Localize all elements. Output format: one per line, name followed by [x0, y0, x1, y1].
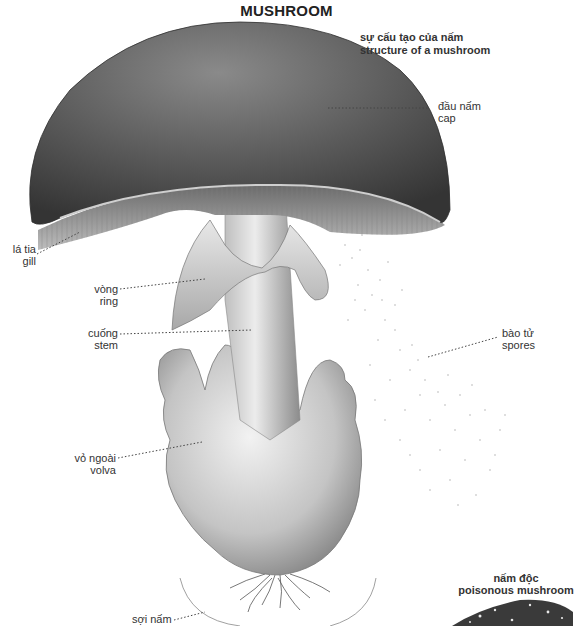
spores-cloud — [339, 229, 506, 506]
label-ring-vi: vòng — [60, 283, 118, 295]
spores-leader — [428, 337, 498, 357]
label-spores-en: spores — [502, 339, 535, 351]
label-volva-vi: vỏ ngoài — [40, 452, 116, 464]
mycelium-leader — [174, 612, 205, 620]
label-stem-vi: cuống — [60, 327, 118, 339]
label-stem-en: stem — [60, 339, 118, 351]
label-spores: bào tử spores — [502, 327, 535, 351]
label-ring: vòng ring — [60, 283, 118, 307]
subtitle: sự cấu tạo của nấm structure of a mushro… — [360, 31, 490, 57]
label-cap: đầu nấm cap — [438, 100, 481, 124]
label-stem: cuống stem — [60, 327, 118, 351]
label-gill: lá tia gill — [0, 243, 36, 267]
label-ring-en: ring — [60, 295, 118, 307]
label-volva-en: volva — [40, 464, 116, 476]
label-cap-vi: đầu nấm — [438, 100, 481, 112]
label-spores-vi: bào tử — [502, 327, 535, 339]
mycelium-outline — [180, 578, 376, 626]
subtitle-vi: sự cấu tạo của nấm — [360, 31, 490, 44]
page-title: MUSHROOM — [0, 2, 573, 19]
label-volva: vỏ ngoài volva — [40, 452, 116, 476]
label-mycelium: sợi nấm — [132, 613, 172, 625]
subtitle-en: structure of a mushroom — [360, 44, 490, 57]
label-mycelium-vi: sợi nấm — [132, 613, 172, 625]
label-gill-en: gill — [0, 255, 36, 267]
poisonous-title-en: poisonous mushroom — [456, 584, 576, 596]
label-cap-en: cap — [438, 112, 481, 124]
poisonous-mushroom-title: nấm độc poisonous mushroom — [456, 572, 576, 596]
mycelium-roots — [230, 574, 330, 612]
poisonous-title-vi: nấm độc — [456, 572, 576, 584]
label-gill-vi: lá tia — [0, 243, 36, 255]
